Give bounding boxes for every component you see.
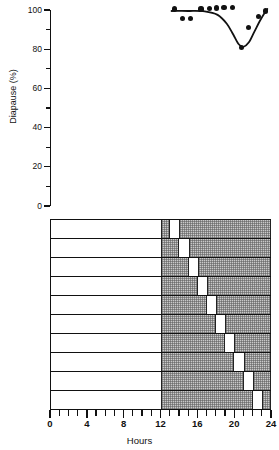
data-point: [239, 45, 244, 50]
y-tick-label: 20: [10, 162, 42, 171]
x-tick-minor: [95, 410, 96, 416]
data-point: [221, 5, 226, 10]
x-tick-minor: [169, 410, 170, 416]
dark-period-block: [207, 277, 271, 295]
x-tick-major: [160, 410, 161, 418]
dark-period-block: [225, 315, 271, 333]
dark-period-block: [189, 239, 272, 257]
dark-period-block: [161, 220, 170, 238]
top-panel-diapause-plot: 100806040200 Diapause (%): [0, 0, 279, 212]
dark-period-block: [161, 296, 207, 314]
dark-period-block: [198, 258, 271, 276]
data-point: [207, 6, 212, 11]
dark-period-block: [234, 334, 271, 352]
x-tick-minor: [151, 410, 152, 416]
x-tick-minor: [224, 410, 225, 416]
scatter-plot-area: [50, 0, 271, 212]
x-tick-minor: [105, 410, 106, 416]
schedule-row: [51, 352, 271, 371]
data-point: [172, 6, 177, 11]
dark-period-block: [262, 391, 271, 409]
dark-period-block: [179, 220, 271, 238]
x-tick-label: 0: [38, 419, 62, 429]
schedule-row: [51, 390, 271, 409]
x-tick-minor: [206, 410, 207, 416]
data-point: [263, 8, 268, 13]
x-axis-title: Hours: [0, 436, 279, 446]
x-tick-minor: [178, 410, 179, 416]
diapause-hours-figure: 100806040200 Diapause (%) 04812162024 Ho…: [0, 0, 279, 450]
data-point: [198, 6, 203, 11]
x-tick-major: [234, 410, 235, 418]
dark-period-block: [161, 334, 225, 352]
x-tick-minor: [188, 410, 189, 416]
dark-period-block: [216, 296, 271, 314]
x-tick-minor: [77, 410, 78, 416]
schedule-row: [51, 238, 271, 257]
x-tick-minor: [59, 410, 60, 416]
dark-period-block: [161, 258, 189, 276]
x-tick-major: [270, 410, 271, 418]
x-tick-label: 4: [75, 419, 99, 429]
dark-period-block: [244, 353, 272, 371]
x-tick-minor: [252, 410, 253, 416]
schedule-rows-frame: [50, 219, 271, 409]
x-tick-major: [123, 410, 124, 418]
bottom-panel-schedule-diagram: 04812162024 Hours: [0, 212, 279, 450]
dark-period-block: [161, 391, 253, 409]
x-tick-minor: [261, 410, 262, 416]
dark-period-block: [161, 372, 244, 390]
x-tick-label: 24: [259, 419, 279, 429]
schedule-row: [51, 314, 271, 333]
x-tick-minor: [141, 410, 142, 416]
x-tick-minor: [243, 410, 244, 416]
schedule-row: [51, 219, 271, 238]
data-point: [214, 5, 219, 10]
dark-period-block: [161, 315, 216, 333]
schedule-row: [51, 257, 271, 276]
x-tick-major: [49, 410, 50, 418]
dark-period-block: [161, 353, 234, 371]
dark-period-block: [161, 277, 198, 295]
dark-period-block: [161, 239, 179, 257]
dark-period-block: [253, 372, 271, 390]
fitted-curve: [50, 0, 271, 212]
x-tick-label: 16: [185, 419, 209, 429]
schedule-row: [51, 371, 271, 390]
x-tick-minor: [68, 410, 69, 416]
x-tick-label: 12: [149, 419, 173, 429]
schedule-row: [51, 333, 271, 352]
x-tick-minor: [132, 410, 133, 416]
y-tick-label: 0: [10, 202, 42, 211]
x-tick-label: 20: [222, 419, 246, 429]
schedule-row: [51, 276, 271, 295]
x-tick-major: [197, 410, 198, 418]
schedule-row: [51, 295, 271, 314]
x-tick-major: [86, 410, 87, 418]
x-tick-minor: [215, 410, 216, 416]
x-tick-label: 8: [112, 419, 136, 429]
y-axis-title: Diapause (%): [9, 53, 18, 141]
x-tick-minor: [114, 410, 115, 416]
y-tick-label: 100: [10, 6, 42, 15]
